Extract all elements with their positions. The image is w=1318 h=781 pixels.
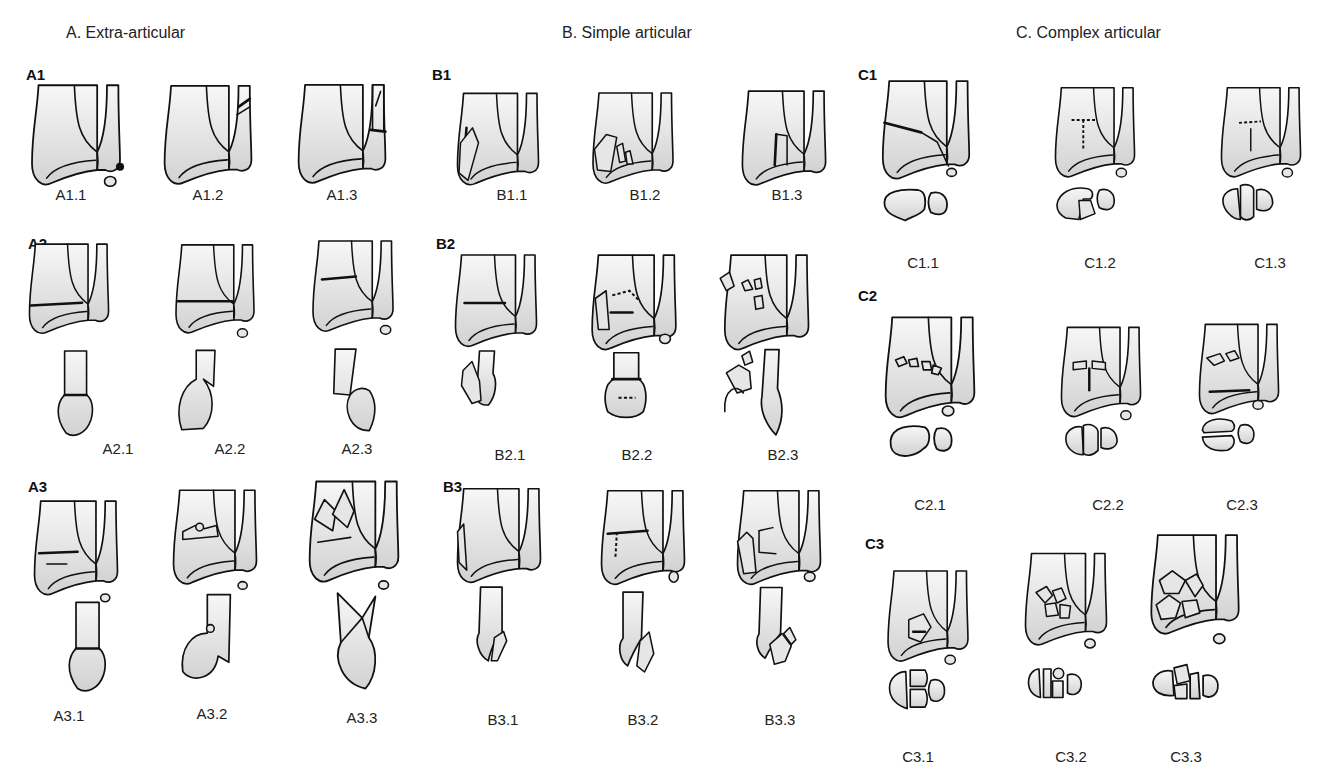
figure-b3-2 [600,484,686,668]
figure-label-c3-1: C3.1 [902,748,934,765]
figure-c3-2 [1024,548,1108,718]
figure-label-b2-2: B2.2 [622,446,653,463]
figure-label-c1-2: C1.2 [1084,254,1116,271]
figure-c1-2 [1054,78,1136,238]
figure-b3-3 [736,484,822,668]
section-title-simple-articular: B. Simple articular [562,24,692,42]
figure-a1-2 [163,82,253,192]
figure-label-a1-2: A1.2 [193,186,224,203]
section-title-complex-articular: C. Complex articular [1016,24,1161,42]
figure-a1-1 [26,82,126,192]
figure-label-b1-3: B1.3 [772,186,803,203]
figure-b3-1 [456,484,542,664]
figure-label-b2-3: B2.3 [768,446,799,463]
figure-label-a3-3: A3.3 [347,709,378,726]
figure-c2-2 [1060,316,1142,472]
figure-label-c3-3: C3.3 [1170,748,1202,765]
figure-label-a1-1: A1.1 [56,186,87,203]
figure-label-c1-1: C1.1 [907,254,939,271]
figure-label-c3-2: C3.2 [1055,748,1087,765]
group-label-b2: B2 [436,235,455,252]
figure-b2-1 [454,252,538,432]
figure-c2-1 [884,314,976,470]
figure-c1-1 [880,78,972,238]
figure-b1-2 [584,90,682,190]
group-label-a1: A1 [26,66,45,83]
section-title-extra-articular: A. Extra-articular [66,24,185,42]
group-label-a3: A3 [28,478,47,495]
figure-label-b2-1: B2.1 [495,446,526,463]
figure-label-b3-3: B3.3 [765,711,796,728]
figure-label-a2-2: A2.2 [215,440,246,457]
group-label-c2: C2 [858,287,877,304]
figure-a2-1 [28,240,110,440]
figure-label-c2-3: C2.3 [1226,496,1258,513]
figure-label-a3-1: A3.1 [54,707,85,724]
figure-label-a1-3: A1.3 [327,186,358,203]
figure-label-a3-2: A3.2 [197,705,228,722]
figure-a3-2 [172,486,258,688]
figure-label-b1-2: B1.2 [630,186,661,203]
figure-a1-3 [297,80,387,192]
figure-b1-1 [456,88,540,194]
figure-a2-3 [310,238,396,438]
figure-label-b3-1: B3.1 [488,711,519,728]
figure-b1-3 [740,88,828,192]
figure-a3-1 [30,498,122,690]
group-label-c1: C1 [858,66,877,83]
figure-label-b1-1: B1.1 [497,186,528,203]
figure-a3-3 [308,478,400,692]
figure-label-b3-2: B3.2 [628,711,659,728]
figure-label-a2-1: A2.1 [103,440,134,457]
figure-b2-2 [590,252,678,438]
figure-c1-3 [1220,78,1302,238]
figure-label-c1-3: C1.3 [1254,254,1286,271]
figure-b2-3 [710,252,814,438]
figure-c3-3 [1148,532,1242,718]
figure-label-a2-3: A2.3 [342,440,373,457]
figure-c3-1 [886,568,970,716]
figure-a2-2 [172,242,258,437]
group-label-b1: B1 [432,66,451,83]
group-label-c3: C3 [865,535,884,552]
figure-c2-3 [1198,316,1280,466]
figure-label-c2-1: C2.1 [914,496,946,513]
figure-label-c2-2: C2.2 [1092,496,1124,513]
